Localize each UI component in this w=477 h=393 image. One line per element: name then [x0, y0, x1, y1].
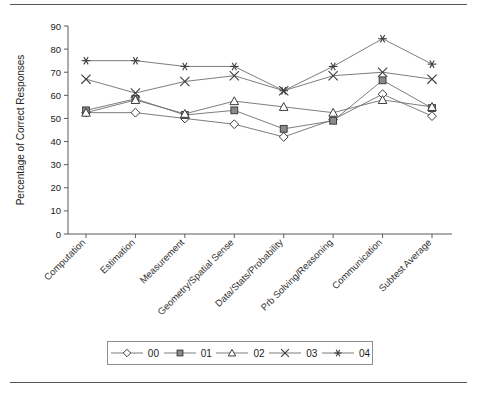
x-tick-label: Communication [330, 237, 384, 291]
x-axis [68, 234, 452, 238]
data-point-marker [428, 60, 437, 67]
svg-text:Communication: Communication [330, 237, 384, 291]
chart-legend: 0001020304 [107, 341, 373, 365]
data-point-marker [334, 350, 341, 356]
legend-label: 04 [359, 348, 370, 359]
triangle-open-icon [215, 346, 249, 360]
legend-label: 01 [201, 348, 212, 359]
y-tick-label: 80 [50, 44, 61, 55]
y-tick-label: 20 [50, 182, 61, 193]
y-tick-label: 60 [50, 90, 61, 101]
legend-label: 00 [148, 348, 159, 359]
chart-figure: 0102030405060708090 ComputationEstimatio… [0, 0, 477, 393]
data-point-marker [82, 57, 91, 64]
data-point-marker [177, 350, 183, 356]
cross-x-icon [268, 346, 302, 360]
legend-entry-03[interactable]: 03 [268, 346, 317, 360]
legend-entry-04[interactable]: 04 [321, 346, 370, 360]
svg-text:Computation: Computation [42, 237, 88, 283]
data-point-marker [329, 63, 338, 70]
svg-text:Subtest Average: Subtest Average [376, 237, 433, 294]
legend-label: 02 [253, 348, 264, 359]
data-point-marker [280, 125, 287, 132]
data-point-marker [231, 107, 238, 114]
y-tick-label: 0 [56, 229, 61, 240]
y-tick-label: 90 [50, 21, 61, 32]
y-tick-label: 40 [50, 136, 61, 147]
data-point-marker [131, 57, 140, 64]
data-point-marker [230, 97, 239, 105]
data-point-marker [330, 117, 337, 124]
data-point-marker [230, 63, 239, 70]
legend-entry-01[interactable]: 01 [163, 346, 212, 360]
series-04 [82, 35, 437, 94]
y-axis-title: Percentage of Correct Responses [15, 55, 26, 206]
data-point-marker [81, 75, 90, 84]
x-tick-label: Estimation [98, 237, 137, 276]
bottom-divider-rule [10, 382, 467, 383]
y-tick-label: 50 [50, 113, 61, 124]
legend-entry-00[interactable]: 00 [110, 346, 159, 360]
y-tick-label: 30 [50, 159, 61, 170]
asterisk-icon [321, 346, 355, 360]
y-tick-label: 70 [50, 67, 61, 78]
data-point-marker [379, 77, 386, 84]
y-tick-label: 10 [50, 205, 61, 216]
square-filled-icon [163, 346, 197, 360]
data-point-marker [230, 120, 239, 129]
x-tick-label: Measurement [137, 236, 186, 285]
data-point-marker [123, 349, 130, 356]
legend-label: 03 [306, 348, 317, 359]
line-chart-plot: 0102030405060708090 ComputationEstimatio… [0, 0, 477, 340]
x-tick-label: Computation [42, 237, 88, 283]
data-point-marker [378, 35, 387, 42]
x-tick-labels: ComputationEstimationMeasurementGeometry… [42, 236, 434, 317]
legend-entry-02[interactable]: 02 [215, 346, 264, 360]
data-point-marker [131, 108, 140, 117]
diamond-open-icon [110, 346, 144, 360]
data-point-marker [279, 133, 288, 142]
y-axis: 0102030405060708090 [50, 21, 68, 240]
series-01 [83, 77, 436, 132]
data-point-marker [181, 63, 190, 70]
data-point-marker [428, 112, 437, 121]
svg-text:Estimation: Estimation [98, 237, 137, 276]
data-point-marker [378, 96, 387, 104]
x-tick-label: Subtest Average [376, 237, 433, 294]
svg-text:Measurement: Measurement [137, 236, 186, 285]
data-series-group [81, 35, 436, 141]
